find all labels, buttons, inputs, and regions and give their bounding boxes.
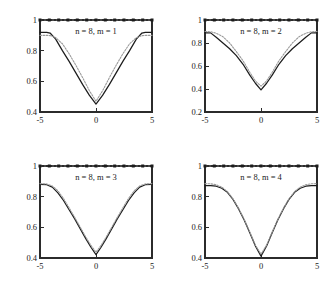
x-tick-label: -5 [201, 115, 208, 125]
data-marker [141, 165, 144, 168]
x-tick-label: 0 [94, 115, 98, 125]
data-marker [39, 165, 42, 168]
data-marker [48, 165, 51, 168]
y-tick-label: 0.8 [191, 192, 202, 202]
data-marker [95, 19, 98, 22]
data-marker [95, 165, 98, 168]
data-marker [232, 165, 235, 168]
y-tick-label: 1 [198, 15, 202, 25]
x-tick-label: 0 [94, 261, 98, 271]
data-marker [260, 19, 263, 22]
data-marker [39, 19, 42, 22]
data-marker [104, 19, 107, 22]
data-marker [316, 165, 319, 168]
data-marker [132, 165, 135, 168]
data-marker [113, 19, 116, 22]
data-marker [151, 19, 154, 22]
x-tick-label: 5 [150, 115, 154, 125]
data-marker [141, 19, 144, 22]
panel-title: n = 8, m = 2 [240, 26, 282, 36]
data-marker [250, 165, 253, 168]
y-tick-label: 0.6 [191, 222, 202, 232]
data-marker [269, 165, 272, 168]
data-marker [278, 165, 281, 168]
data-marker [48, 19, 51, 22]
y-tick-label: 1 [33, 161, 37, 171]
y-tick-label: 0.8 [26, 46, 37, 56]
data-marker [222, 19, 225, 22]
data-marker [306, 19, 309, 22]
data-marker [288, 19, 291, 22]
curve-solid [40, 184, 152, 254]
data-marker [213, 165, 216, 168]
data-marker [306, 165, 309, 168]
data-marker [104, 165, 107, 168]
data-marker [151, 165, 154, 168]
data-marker [76, 165, 79, 168]
curve-solid [40, 32, 152, 104]
data-marker [297, 165, 300, 168]
panel-title: n = 8, m = 3 [75, 172, 117, 182]
curve-solid [205, 186, 317, 257]
y-tick-label: 1 [33, 15, 37, 25]
x-tick-label: 5 [315, 261, 319, 271]
data-marker [269, 19, 272, 22]
data-marker [288, 165, 291, 168]
curve-dotted [40, 35, 152, 101]
y-tick-label: 1 [198, 161, 202, 171]
data-marker [222, 165, 225, 168]
x-tick-label: -5 [36, 115, 43, 125]
chart-panel-2: 0.20.40.60.81-505n = 8, m = 2 [165, 0, 329, 146]
data-marker [85, 19, 88, 22]
x-tick-label: 0 [259, 261, 263, 271]
y-tick-label: 0.8 [26, 192, 37, 202]
curve-solid [205, 33, 317, 90]
chart-panel-1: 0.40.60.81-505n = 8, m = 1 [0, 0, 164, 146]
chart-panel-4: 0.40.60.81-505n = 8, m = 4 [165, 146, 329, 292]
curve-dotted [205, 184, 317, 255]
x-tick-label: 0 [259, 115, 263, 125]
y-tick-label: 0.6 [191, 61, 202, 71]
data-marker [241, 165, 244, 168]
data-marker [241, 19, 244, 22]
data-marker [278, 19, 281, 22]
data-marker [316, 19, 319, 22]
curve-dotted [40, 184, 152, 253]
data-marker [123, 19, 126, 22]
y-tick-label: 0.6 [26, 76, 37, 86]
data-marker [113, 165, 116, 168]
data-marker [67, 165, 70, 168]
data-marker [57, 165, 60, 168]
data-marker [250, 19, 253, 22]
data-marker [85, 165, 88, 168]
y-tick-label: 0.2 [191, 107, 202, 117]
data-marker [67, 19, 70, 22]
panel-title: n = 8, m = 1 [75, 26, 117, 36]
data-marker [297, 19, 300, 22]
data-marker [213, 19, 216, 22]
chart-panel-3: 0.40.60.81-505n = 8, m = 3 [0, 146, 164, 292]
x-tick-label: -5 [201, 261, 208, 271]
data-marker [123, 165, 126, 168]
x-tick-label: 5 [150, 261, 154, 271]
x-tick-label: -5 [36, 261, 43, 271]
data-marker [76, 19, 79, 22]
x-tick-label: 5 [315, 115, 319, 125]
data-marker [260, 165, 263, 168]
data-marker [204, 19, 207, 22]
y-tick-label: 0.8 [191, 38, 202, 48]
y-tick-label: 0.4 [191, 84, 202, 94]
y-tick-label: 0.6 [26, 222, 37, 232]
figure-panel-grid: 0.40.60.81-505n = 8, m = 10.20.40.60.81-… [0, 0, 329, 292]
curve-dotted [205, 32, 317, 87]
data-marker [232, 19, 235, 22]
panel-title: n = 8, m = 4 [240, 172, 282, 182]
data-marker [132, 19, 135, 22]
data-marker [204, 165, 207, 168]
data-marker [57, 19, 60, 22]
